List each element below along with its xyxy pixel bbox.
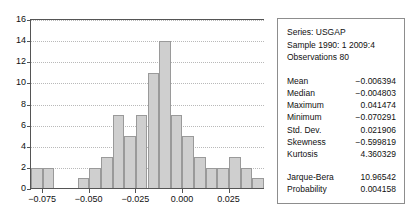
x-axis-tick-mark	[42, 189, 43, 193]
stat-label: Minimum	[287, 111, 321, 123]
statistic-row: Minimum−0.070291	[287, 111, 396, 123]
histogram-stats-figure: 0246810121416 −0.075−0.050−0.0250.0000.0…	[0, 0, 413, 222]
normality-test-list: Jarque-Bera10.96542Probability0.004158	[287, 171, 396, 196]
y-axis-tick-label: 0	[0, 184, 26, 193]
spacer	[287, 64, 396, 75]
histogram-bar	[124, 136, 136, 189]
stat-label: Mean	[287, 75, 308, 87]
stat-value: −0.070291	[356, 111, 396, 123]
stat-value: 0.041474	[361, 99, 396, 111]
stat-label: Median	[287, 87, 315, 99]
histogram-bar	[206, 168, 218, 189]
x-axis-tick-mark	[182, 189, 183, 193]
stat-value: 0.004158	[361, 183, 396, 195]
histogram-bar	[241, 168, 253, 189]
histogram-bars	[31, 20, 264, 189]
histogram-bar	[89, 168, 101, 189]
histogram-bar	[136, 115, 148, 189]
x-axis-tick-label: −0.025	[121, 194, 149, 204]
histogram-bar	[217, 168, 229, 189]
stat-label: Jarque-Bera	[287, 171, 334, 183]
test-row: Probability0.004158	[287, 183, 396, 195]
statistic-row: Maximum0.041474	[287, 99, 396, 111]
stat-label: Std. Dev.	[287, 124, 321, 136]
stat-label: Skewness	[287, 136, 326, 148]
stat-label: Probability	[287, 183, 327, 195]
statistics-header-line: Sample 1990: 1 2009:4	[287, 39, 396, 52]
histogram-bar	[31, 168, 43, 189]
histogram-bar	[43, 168, 55, 189]
statistics-panel: Series: USGAPSample 1990: 1 2009:4Observ…	[277, 18, 405, 204]
histogram-bar	[171, 115, 183, 189]
x-axis-tick-label: −0.050	[75, 194, 103, 204]
statistic-row: Median−0.004803	[287, 87, 396, 99]
y-axis-tick-label: 8	[0, 99, 26, 108]
x-axis-tick-mark	[229, 189, 230, 193]
y-axis-tick-mark	[27, 189, 31, 190]
statistic-row: Skewness−0.599819	[287, 136, 396, 148]
y-axis-tick-label: 16	[0, 15, 26, 24]
stat-value: 0.021906	[361, 124, 396, 136]
statistic-row: Kurtosis4.360329	[287, 148, 396, 160]
statistics-header-line: Observations 80	[287, 51, 396, 64]
histogram-bar	[113, 115, 125, 189]
statistics-list: Mean−0.006394Median−0.004803Maximum0.041…	[287, 75, 396, 161]
statistic-row: Mean−0.006394	[287, 75, 396, 87]
x-axis-tick-label: 0.025	[217, 194, 240, 204]
stat-value: 4.360329	[361, 148, 396, 160]
stat-value: 10.96542	[361, 171, 396, 183]
histogram-bar	[101, 157, 113, 189]
x-axis-tick-mark	[89, 189, 90, 193]
test-row: Jarque-Bera10.96542	[287, 171, 396, 183]
x-axis-line	[30, 188, 264, 189]
y-axis-tick-label: 6	[0, 120, 26, 129]
y-axis-tick-label: 2	[0, 162, 26, 171]
x-axis: −0.075−0.050−0.0250.0000.025	[0, 194, 268, 208]
y-axis-tick-label: 10	[0, 78, 26, 87]
stat-label: Kurtosis	[287, 148, 318, 160]
x-axis-tick-label: 0.000	[171, 194, 194, 204]
stat-value: −0.006394	[356, 75, 396, 87]
histogram-bar	[148, 73, 160, 189]
histogram-bar	[182, 136, 194, 189]
statistics-header: Series: USGAPSample 1990: 1 2009:4Observ…	[287, 26, 396, 64]
x-axis-tick-mark	[135, 189, 136, 193]
statistic-row: Std. Dev.0.021906	[287, 124, 396, 136]
stat-label: Maximum	[287, 99, 324, 111]
statistics-header-line: Series: USGAP	[287, 26, 396, 39]
histogram-bar	[194, 157, 206, 189]
histogram-chart: 0246810121416 −0.075−0.050−0.0250.0000.0…	[0, 0, 268, 222]
plot-area	[30, 19, 264, 189]
histogram-bar	[159, 41, 171, 189]
stat-value: −0.599819	[356, 136, 396, 148]
y-axis: 0246810121416	[0, 13, 26, 195]
y-axis-tick-label: 12	[0, 57, 26, 66]
x-axis-tick-label: −0.075	[28, 194, 56, 204]
histogram-bar	[229, 157, 241, 189]
spacer	[287, 161, 396, 171]
y-axis-tick-label: 4	[0, 141, 26, 150]
y-axis-tick-label: 14	[0, 36, 26, 45]
stat-value: −0.004803	[356, 87, 396, 99]
